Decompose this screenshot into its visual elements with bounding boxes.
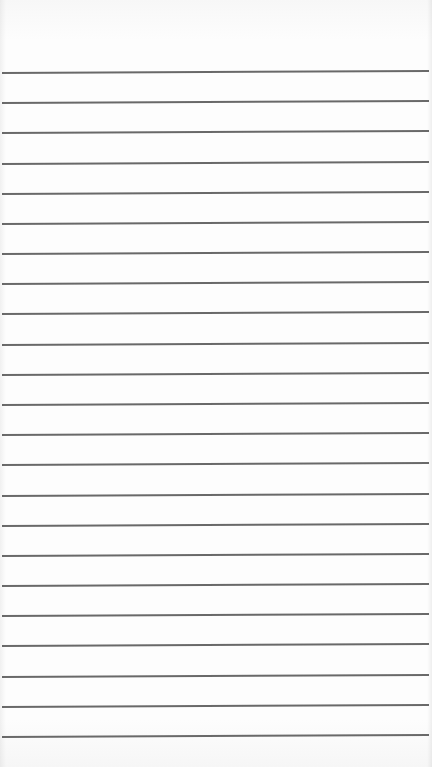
ruled-line xyxy=(2,553,429,557)
ruled-line xyxy=(2,432,429,436)
ruled-line xyxy=(2,130,429,134)
ruled-line xyxy=(2,734,429,738)
ruled-line xyxy=(2,583,429,587)
ruled-line xyxy=(2,221,429,225)
ruled-line xyxy=(2,311,429,315)
ruled-line xyxy=(2,100,429,104)
lined-paper-sheet xyxy=(0,0,432,767)
ruled-line xyxy=(2,251,429,255)
ruled-line xyxy=(2,674,429,678)
ruled-line xyxy=(2,70,429,74)
ruled-line xyxy=(2,161,429,165)
ruled-line xyxy=(2,643,429,647)
ruled-line xyxy=(2,342,429,346)
ruled-line xyxy=(2,462,429,466)
ruled-line xyxy=(2,523,429,527)
ruled-line xyxy=(2,704,429,708)
ruled-line xyxy=(2,281,429,285)
ruled-line xyxy=(2,613,429,617)
ruled-line xyxy=(2,493,429,497)
ruled-line xyxy=(2,191,429,195)
ruled-line xyxy=(2,372,429,376)
ruled-line xyxy=(2,402,429,406)
